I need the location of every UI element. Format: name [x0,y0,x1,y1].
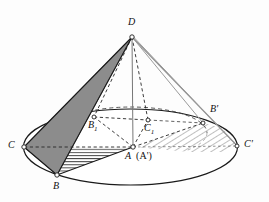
label-vertex-Bprime: B' [210,104,218,114]
vertex-marker-C [22,145,26,149]
label-apex-D: D [128,17,135,27]
label-vertex-A-group: A(A') [125,151,152,161]
vertex-marker-D [130,35,134,39]
vertex-marker-B [55,173,59,177]
label-vertex-C1-subscript: 1 [151,128,155,136]
label-vertex-A-alias: (A') [131,150,152,161]
label-vertex-C: C [8,140,15,150]
label-vertex-B1-subscript: 1 [94,125,98,133]
vertex-marker-Bprime [201,121,205,125]
figure-canvas [0,0,269,202]
vertex-marker-Cprime [235,144,239,148]
vertex-marker-A [131,145,135,149]
label-vertex-C1-group: C1 [144,123,154,136]
label-vertex-B1-group: B1 [88,120,98,133]
label-vertex-Cprime: C' [244,139,253,149]
label-vertex-B: B [53,181,59,191]
label-vertex-C1: C [144,122,151,133]
geometry-figure: D C B A(A') B1 C1 B' C' [0,0,269,202]
